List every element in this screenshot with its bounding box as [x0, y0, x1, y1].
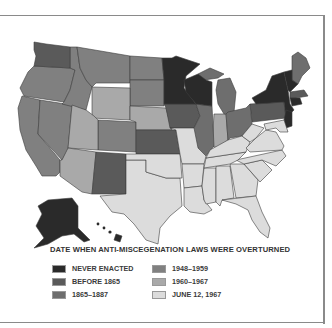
legend-label: NEVER ENACTED	[72, 264, 134, 273]
state-colorado	[98, 120, 136, 152]
state-new-mexico	[92, 152, 126, 194]
state-hawaii-big	[114, 234, 122, 242]
state-wyoming	[92, 87, 130, 120]
legend-item-never-enacted: NEVER ENACTED	[52, 263, 134, 274]
legend-label: BEFORE 1865	[72, 277, 120, 286]
state-hawaii-2	[103, 227, 106, 230]
state-michigan	[216, 78, 236, 114]
legend-item-1960-1967: 1960–1967	[152, 276, 208, 287]
state-maine	[292, 52, 310, 84]
legend-item-before-1865: BEFORE 1865	[52, 276, 120, 287]
legend-label: 1865–1887	[72, 290, 108, 299]
legend-item-1948-1959: 1948–1959	[152, 263, 208, 274]
swatch-1960-1967	[152, 278, 166, 286]
state-arkansas	[182, 164, 204, 188]
state-washington	[34, 42, 70, 68]
state-hawaii-1	[97, 223, 100, 226]
state-nebraska	[130, 106, 172, 130]
state-mississippi	[202, 168, 216, 204]
swatch-1865-1887	[52, 291, 66, 299]
state-pennsylvania	[250, 102, 286, 122]
state-hawaii-3	[108, 230, 111, 233]
legend-title: DATE WHEN ANTI-MISCEGENATION LAWS WERE O…	[50, 245, 290, 254]
legend-label: JUNE 12, 1967	[172, 290, 221, 299]
swatch-never-enacted	[52, 265, 66, 273]
state-alaska	[34, 198, 90, 248]
state-massachusetts	[290, 90, 308, 98]
state-iowa	[164, 104, 200, 128]
state-south-dakota	[130, 80, 164, 106]
legend: NEVER ENACTED BEFORE 1865 1865–1887 1948…	[52, 263, 272, 307]
swatch-1948-1959	[152, 265, 166, 273]
state-arizona	[60, 148, 96, 194]
legend-item-june-12-1967: JUNE 12, 1967	[152, 289, 221, 300]
legend-item-1865-1887: 1865–1887	[52, 289, 108, 300]
state-connecticut-ri	[290, 98, 302, 106]
legend-label: 1948–1959	[172, 264, 208, 273]
legend-label: 1960–1967	[172, 277, 208, 286]
state-north-dakota	[130, 56, 164, 80]
state-florida	[222, 196, 270, 238]
swatch-june-12-1967	[152, 291, 166, 299]
state-kansas	[136, 130, 180, 154]
swatch-before-1865	[52, 278, 66, 286]
